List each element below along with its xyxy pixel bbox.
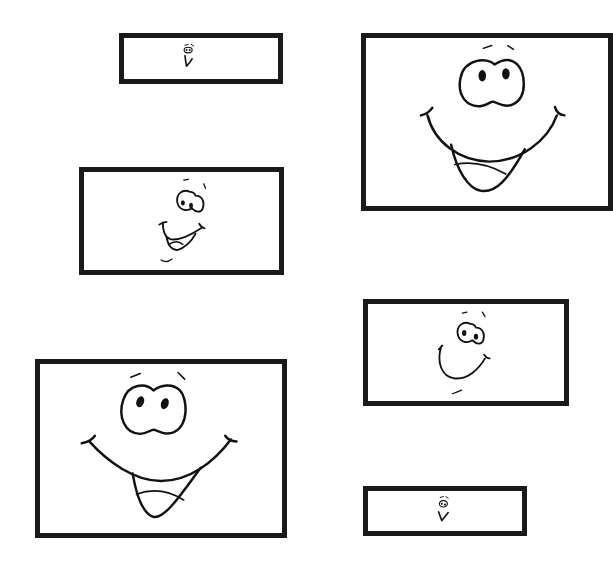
tiny-surprised-face-icon [368, 491, 522, 531]
face-frame-small-top: small-top [119, 33, 283, 84]
face-frame-large-bottom-left: large-bottom-left [35, 359, 287, 538]
face-frame-small-bottom: small-bottom [363, 486, 527, 536]
tiny-surprised-face-icon [124, 38, 278, 79]
face-frame-medium-right: medium-right [363, 299, 569, 406]
face-frame-medium-left: medium-left [79, 167, 284, 275]
big-grin-face-icon [366, 38, 608, 206]
tilted-grin-face-icon [84, 172, 279, 270]
face-frame-large-top-right: large-top-right [361, 33, 613, 211]
big-grin-face-icon [40, 364, 282, 533]
tilted-smile-face-icon [368, 304, 564, 401]
